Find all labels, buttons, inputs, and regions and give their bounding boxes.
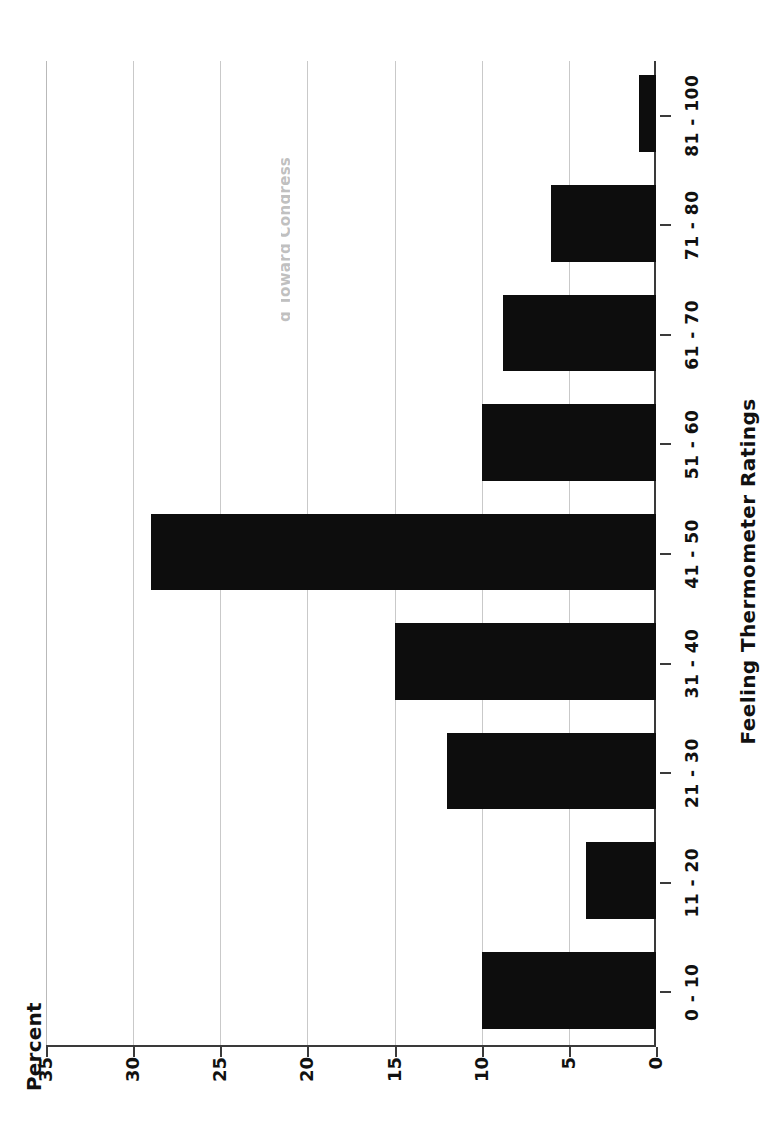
y-axis-tick-mark <box>307 1047 309 1057</box>
x-axis-tick-mark <box>660 443 671 445</box>
x-axis-tick-mark <box>660 553 671 555</box>
y-axis-tick-mark <box>220 1047 222 1057</box>
y-axis-tick-mark <box>46 1047 48 1057</box>
bar <box>503 295 656 372</box>
y-axis-tick-mark <box>482 1047 484 1057</box>
x-axis-tick-mark <box>660 115 671 117</box>
y-axis-tick-label: 30 <box>122 1057 143 1082</box>
bar <box>482 952 656 1029</box>
bar <box>586 842 656 919</box>
x-axis-tick-mark <box>660 882 671 884</box>
x-axis-category-label: 81 - 100 <box>682 75 702 157</box>
bar <box>639 75 656 152</box>
x-axis-tick-mark <box>660 224 671 226</box>
x-axis-category-label: 61 - 70 <box>682 300 702 370</box>
bar <box>551 185 656 262</box>
y-axis-tick-label: 35 <box>35 1057 56 1082</box>
bar <box>151 514 656 591</box>
x-axis-category-labels: 0 - 1011 - 2021 - 3031 - 4041 - 5051 - 6… <box>660 61 730 1047</box>
x-axis-tick-mark <box>660 663 671 665</box>
y-axis-tick-label: 15 <box>384 1057 405 1082</box>
x-axis-category-label: 21 - 30 <box>682 738 702 808</box>
bar-series <box>46 61 654 1045</box>
y-axis-tick-label: 25 <box>209 1057 230 1082</box>
bar <box>395 623 656 700</box>
y-axis-tick-label: 10 <box>471 1057 492 1082</box>
y-axis-tick-label: 5 <box>558 1057 579 1070</box>
y-axis-tick-mark <box>569 1047 571 1057</box>
bar <box>447 733 656 810</box>
y-axis-tick-label: 20 <box>296 1057 317 1082</box>
x-axis-tick-mark <box>660 991 671 993</box>
y-axis-tick-mark <box>133 1047 135 1057</box>
rotated-figure-canvas: g Toward Congress Percent 05101520253035… <box>0 0 768 1143</box>
y-axis-tick-label: 0 <box>645 1057 666 1070</box>
bar-chart-figure: g Toward Congress Percent 05101520253035… <box>0 0 768 1143</box>
x-axis-category-label: 71 - 80 <box>682 190 702 260</box>
x-axis-category-label: 11 - 20 <box>682 848 702 918</box>
gridline <box>46 61 47 1045</box>
y-axis-ticks: 05101520253035 <box>46 1047 656 1143</box>
plot-area <box>46 61 656 1047</box>
y-axis-tick-mark <box>395 1047 397 1057</box>
x-axis-category-label: 51 - 60 <box>682 410 702 480</box>
x-axis-category-label: 31 - 40 <box>682 629 702 699</box>
bar <box>482 404 656 481</box>
x-axis-tick-mark <box>660 772 671 774</box>
x-axis-category-label: 41 - 50 <box>682 519 702 589</box>
x-axis-label: Feeling Thermometer Ratings <box>736 0 760 1143</box>
y-axis-tick-mark <box>656 1047 658 1057</box>
x-axis-category-label: 0 - 10 <box>682 964 702 1021</box>
x-axis-tick-mark <box>660 334 671 336</box>
